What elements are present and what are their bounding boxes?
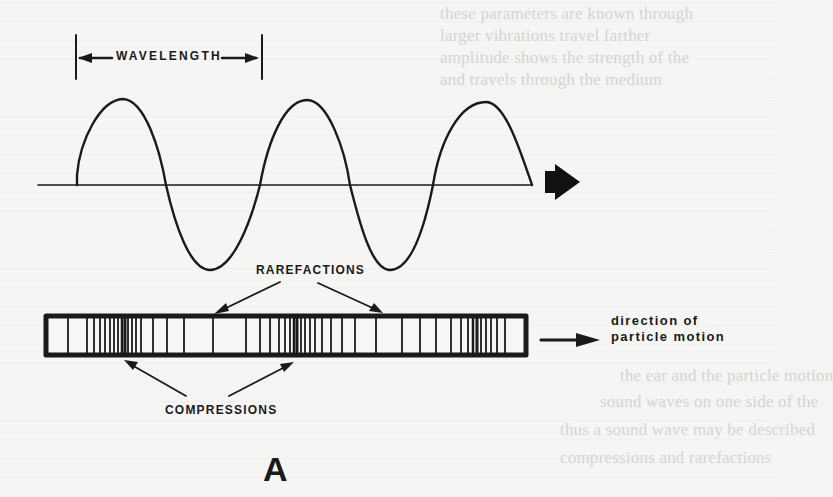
compressions-label: COMPRESSIONS xyxy=(165,403,277,417)
particle-motion-label-line2: particle motion xyxy=(611,329,725,345)
arrow-left-icon xyxy=(78,53,92,63)
panel-label: A xyxy=(263,450,288,489)
wavelength-label: WAVELENGTH xyxy=(116,49,222,63)
particle-motion-label: direction of particle motion xyxy=(611,313,725,345)
arrowhead-icon xyxy=(369,303,383,313)
particle-motion-arrow xyxy=(541,333,600,347)
compression-arrows xyxy=(124,360,294,396)
rarefactions-label: RAREFACTIONS xyxy=(256,263,365,277)
arrow-right-icon xyxy=(576,333,600,347)
arrowhead-icon xyxy=(124,360,138,370)
propagation-arrow-icon xyxy=(545,164,580,200)
arrowhead-icon xyxy=(214,303,229,314)
arrowhead-icon xyxy=(280,362,294,372)
rarefaction-arrows xyxy=(214,282,383,314)
particle-motion-label-line1: direction of xyxy=(611,313,725,329)
arrow-right-icon xyxy=(245,53,259,63)
compression-bar xyxy=(46,316,526,355)
